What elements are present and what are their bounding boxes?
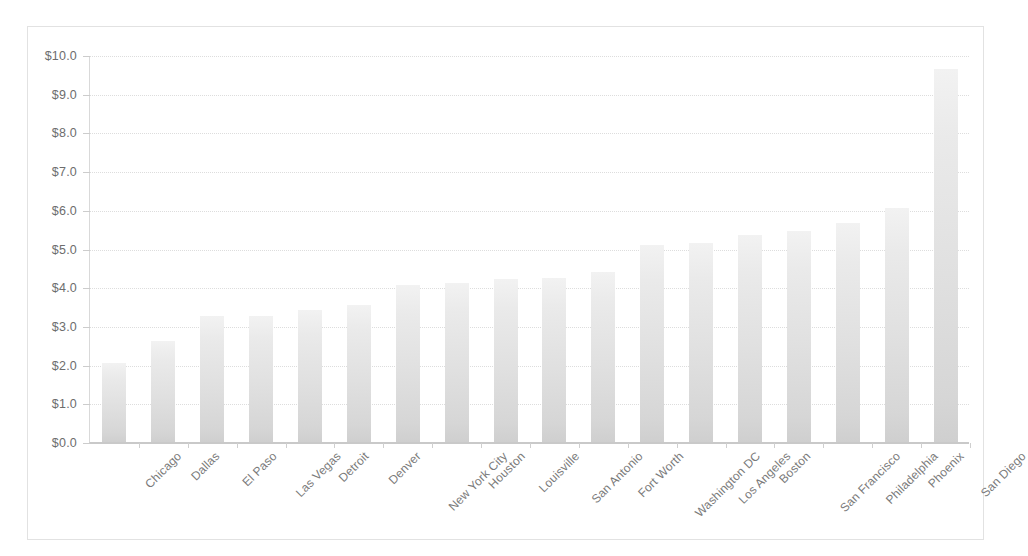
y-axis-tick-label: $10.0 [45,49,77,63]
bar[interactable] [298,310,322,442]
bar-series [90,56,969,442]
bar[interactable] [836,223,860,442]
chart-frame: $10.0$9.0$8.0$7.0$6.0$5.0$4.0$3.0$2.0$1.… [27,26,984,540]
y-axis-labels: $10.0$9.0$8.0$7.0$6.0$5.0$4.0$3.0$2.0$1.… [28,56,83,443]
bar[interactable] [640,245,664,442]
y-axis-tick-label: $6.0 [52,204,77,218]
bar[interactable] [200,316,224,442]
bar[interactable] [787,231,811,442]
x-axis-tick [970,443,971,448]
y-axis-tick [83,366,90,367]
x-axis-tick-label: San Diego [977,449,1028,500]
y-axis-tick-label: $5.0 [52,243,77,257]
y-axis-tick-label: $7.0 [52,165,77,179]
y-axis-tick [83,133,90,134]
plot-area [89,56,969,443]
y-axis-tick-label: $4.0 [52,281,77,295]
y-axis-tick [83,250,90,251]
bar[interactable] [591,272,615,442]
bar[interactable] [885,208,909,442]
y-axis-tick-label: $0.0 [52,436,77,450]
y-axis-tick [83,56,90,57]
bar[interactable] [689,243,713,442]
x-axis-tick-label: Detroit [336,449,372,485]
y-axis-tick-label: $8.0 [52,126,77,140]
bar[interactable] [151,341,175,442]
x-axis-tick-label: El Paso [240,449,280,489]
bar[interactable] [738,235,762,442]
bar[interactable] [494,279,518,442]
y-axis-tick [83,172,90,173]
x-axis-tick-label: Chicago [143,449,185,491]
bar[interactable] [396,285,420,442]
y-axis-tick [83,404,90,405]
y-axis-tick-label: $2.0 [52,359,77,373]
y-axis-tick-label: $1.0 [52,397,77,411]
y-axis-tick [83,288,90,289]
bar[interactable] [542,278,566,442]
bar[interactable] [934,69,958,442]
bar[interactable] [249,316,273,442]
x-axis-tick-label: Louisville [536,449,582,495]
y-axis-tick [83,443,90,444]
bar[interactable] [445,283,469,442]
x-axis-tick-label: Denver [386,449,424,487]
y-axis-tick-label: $9.0 [52,88,77,102]
y-axis-tick [83,211,90,212]
bar[interactable] [102,363,126,442]
x-axis-labels: ChicagoDallasEl PasoLas VegasDetroitDenv… [89,445,969,540]
bar[interactable] [347,305,371,442]
x-axis-tick-label: San Antonio [589,449,646,506]
y-axis-tick [83,95,90,96]
y-axis-tick [83,327,90,328]
x-axis-tick-label: Dallas [188,449,222,483]
y-axis-tick-label: $3.0 [52,320,77,334]
